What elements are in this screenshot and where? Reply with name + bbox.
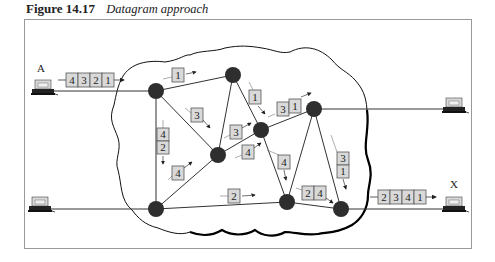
packet: 3 [224,123,251,139]
packet: 4 [168,162,192,180]
svg-text:3: 3 [340,152,346,164]
svg-text:4: 4 [281,156,287,168]
router-node [279,194,295,210]
svg-text:1: 1 [105,74,111,86]
packet: 2 4 [296,186,333,203]
svg-text:4: 4 [405,191,411,203]
svg-text:1: 1 [292,100,298,112]
svg-text:3: 3 [393,191,399,203]
packet: 4 [235,143,261,159]
svg-text:4: 4 [175,167,181,179]
host-x-computer-icon [442,197,469,212]
datagram-diagram: A X 4 3 2 1 2 3 4 1 1 3 [0,0,495,262]
router-node [306,101,322,117]
svg-text:2: 2 [93,74,99,86]
svg-text:1: 1 [252,91,258,103]
figure-frame [25,20,472,249]
network-links [40,75,448,209]
host-a-computer-icon [31,80,58,95]
svg-text:4: 4 [245,146,251,158]
svg-text:3: 3 [233,126,239,138]
source-packet-queue: 4 3 2 1 [58,73,124,87]
svg-text:3: 3 [194,109,200,121]
svg-text:3: 3 [280,103,286,115]
router-node [148,83,164,99]
packet: 2 [220,189,255,203]
svg-text:2: 2 [231,190,237,202]
host-x-label: X [450,178,458,190]
svg-text:1: 1 [340,165,346,177]
router-node [225,67,241,83]
packet: 3 1 [268,93,311,117]
svg-text:4: 4 [317,187,323,199]
svg-text:1: 1 [175,69,181,81]
svg-text:2: 2 [381,191,387,203]
packet: 4 2 [157,120,169,164]
packet: 1 [163,68,196,82]
svg-text:2: 2 [305,187,311,199]
svg-text:3: 3 [81,74,87,86]
host-bottom-left-computer-icon [28,197,55,212]
packet: 4 [267,150,290,180]
router-node [210,147,226,163]
svg-text:1: 1 [417,191,423,203]
svg-text:4: 4 [69,74,75,86]
packet: 1 [249,82,265,114]
svg-text:4: 4 [160,128,166,140]
router-node [333,201,349,217]
svg-text:2: 2 [160,141,166,153]
host-a-label: A [37,62,45,74]
router-node [148,201,164,217]
router-node [253,122,269,138]
destination-packet-queue: 2 3 4 1 [370,190,436,204]
host-top-right-computer-icon [442,98,469,113]
